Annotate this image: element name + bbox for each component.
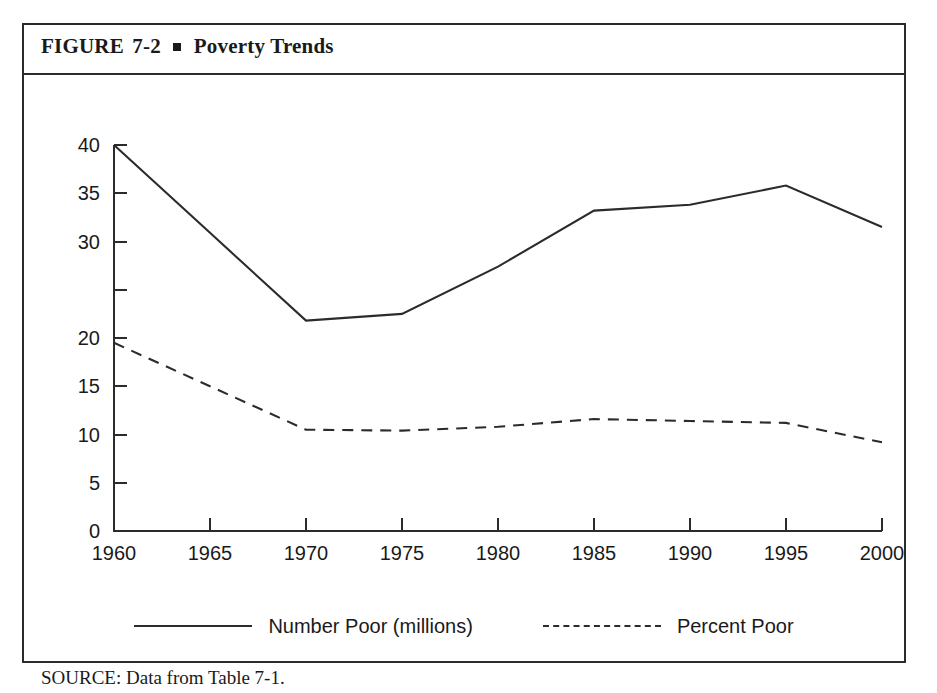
- y-tick-label: 15: [78, 375, 100, 397]
- x-tick-label: 1985: [572, 542, 617, 564]
- y-axis-ticks: [114, 145, 127, 531]
- x-tick-label: 1965: [188, 542, 233, 564]
- figure-frame: FIGURE 7-2 Poverty Trends 40353020151050…: [22, 23, 906, 663]
- y-tick-label: 10: [78, 424, 100, 446]
- x-tick-label: 1990: [668, 542, 713, 564]
- legend-label-number-poor: Number Poor (millions): [268, 615, 473, 638]
- figure-title-band: FIGURE 7-2 Poverty Trends: [24, 25, 904, 75]
- chart-axes: [114, 145, 882, 531]
- y-axis-tick-labels: 40353020151050: [78, 134, 100, 542]
- figure-label: FIGURE: [41, 34, 124, 58]
- source-note: SOURCE: Data from Table 7-1.: [41, 667, 285, 689]
- series-line-number-poor: [114, 145, 882, 321]
- square-bullet-icon: [173, 43, 181, 51]
- chart-legend: Number Poor (millions) Percent Poor: [24, 609, 904, 643]
- legend-swatch-dashed-icon: [543, 625, 661, 627]
- y-tick-label: 40: [78, 134, 100, 156]
- legend-label-percent-poor: Percent Poor: [677, 615, 794, 638]
- figure-title-text: Poverty Trends: [194, 34, 334, 58]
- legend-item-percent-poor: Percent Poor: [543, 615, 794, 638]
- series-line-percent-poor: [114, 343, 882, 442]
- legend-swatch-solid-icon: [134, 625, 252, 627]
- legend-item-number-poor: Number Poor (millions): [134, 615, 473, 638]
- x-tick-label: 1970: [284, 542, 329, 564]
- x-tick-label: 1980: [476, 542, 521, 564]
- x-tick-label: 1975: [380, 542, 425, 564]
- figure-number: 7-2: [132, 34, 161, 58]
- chart-plot-area: 40353020151050 1960196519701975198019851…: [24, 75, 904, 661]
- poverty-trends-line-chart: 40353020151050 1960196519701975198019851…: [24, 75, 904, 605]
- page-title: FIGURE 7-2 Poverty Trends: [41, 34, 334, 59]
- x-tick-label: 2000: [860, 542, 904, 564]
- y-tick-label: 20: [78, 327, 100, 349]
- x-tick-label: 1995: [764, 542, 809, 564]
- x-tick-label: 1960: [92, 542, 137, 564]
- x-axis-tick-labels: 196019651970197519801985199019952000: [92, 542, 904, 564]
- y-tick-label: 0: [89, 520, 100, 542]
- y-tick-label: 30: [78, 231, 100, 253]
- x-axis-ticks: [114, 518, 882, 531]
- y-tick-label: 5: [89, 472, 100, 494]
- y-tick-label: 35: [78, 182, 100, 204]
